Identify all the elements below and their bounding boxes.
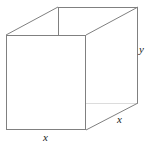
box-figure-container: x x x y [0, 0, 150, 146]
edge-top-left-receding [6, 7, 58, 35]
edge-top-right-receding [86, 7, 138, 35]
dimension-label-base-width: x [43, 132, 48, 143]
edge-bottom-right-receding [86, 103, 138, 130]
dimension-label-height: y [139, 44, 144, 55]
rectangular-box-wireframe [0, 0, 150, 146]
dimension-label-base-depth: x [117, 114, 122, 125]
